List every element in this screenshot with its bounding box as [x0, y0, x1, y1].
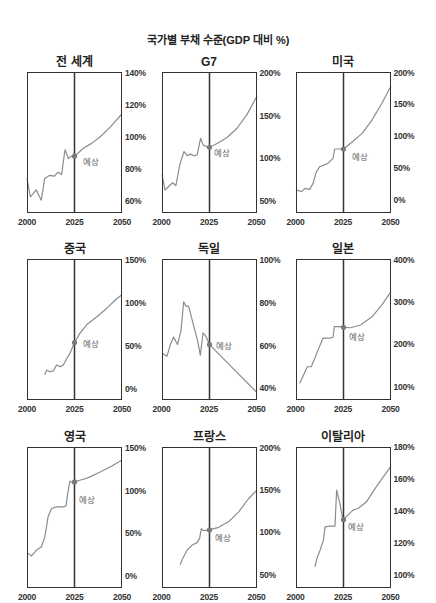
y-axis-tick-label: 0%	[125, 570, 137, 582]
plot-frame	[296, 259, 391, 400]
panel-title: 중국	[7, 242, 142, 256]
panel-title: 독일	[142, 242, 277, 256]
y-axis-tick-label: 60%	[125, 195, 141, 207]
x-axis-tick-label: 2050	[113, 591, 131, 603]
x-axis-tick-label: 2025	[334, 403, 352, 415]
y-axis-tick-label: 140%	[394, 505, 415, 517]
plot-frame	[162, 447, 257, 588]
chart-panel-china: 중국 예상150%100%50%0%200020252050	[27, 259, 122, 400]
plot-frame	[162, 259, 257, 400]
chart-panel-italy: 이탈리아 예상180%160%140%120%100%200020252050	[296, 447, 391, 588]
y-axis-tick-label: 200%	[394, 67, 415, 79]
chart-title: 국가별 부채 수준(GDP 대비 %)	[0, 33, 436, 47]
x-axis-tick-label: 2000	[152, 403, 170, 415]
forecast-label: 예상	[216, 340, 232, 352]
y-axis-tick-label: 100%	[394, 569, 415, 581]
x-axis-tick-label: 2000	[286, 403, 304, 415]
y-axis-tick-label: 100%	[260, 152, 281, 164]
y-axis-tick-label: 400%	[394, 254, 415, 266]
y-axis-tick-label: 160%	[394, 473, 415, 485]
forecast-label: 예상	[79, 494, 95, 506]
y-axis-tick-label: 80%	[260, 297, 276, 309]
y-axis-tick-label: 100%	[125, 131, 146, 143]
x-axis-tick-label: 2050	[247, 216, 265, 228]
x-axis-tick-label: 2025	[65, 591, 83, 603]
chart-panel-world: 전 세계 예상140%120%100%80%60%200020252050	[27, 72, 122, 213]
forecast-label: 예상	[349, 331, 365, 343]
y-axis-tick-label: 50%	[125, 527, 141, 539]
x-axis-tick-label: 2000	[286, 591, 304, 603]
panel-title: 전 세계	[7, 55, 142, 69]
x-axis-tick-label: 2025	[200, 591, 218, 603]
panel-title: 이탈리아	[276, 430, 411, 444]
panel-title: 미국	[276, 55, 411, 69]
y-axis-tick-label: 0%	[394, 194, 406, 206]
forecast-label: 예상	[83, 338, 99, 350]
x-axis-tick-label: 2050	[113, 216, 131, 228]
x-axis-tick-label: 2000	[152, 216, 170, 228]
x-axis-tick-label: 2050	[381, 403, 399, 415]
y-axis-tick-label: 200%	[394, 338, 415, 350]
plot-frame	[162, 72, 257, 213]
y-axis-tick-label: 150%	[260, 484, 281, 496]
x-axis-tick-label: 2050	[247, 591, 265, 603]
panel-title: G7	[142, 55, 277, 69]
y-axis-tick-label: 40%	[260, 382, 276, 394]
x-axis-tick-label: 2050	[381, 591, 399, 603]
y-axis-tick-label: 300%	[394, 296, 415, 308]
y-axis-tick-label: 100%	[125, 485, 146, 497]
x-axis-tick-label: 2050	[247, 403, 265, 415]
chart-panel-germany: 독일 예상100%80%60%40%200020252050	[162, 259, 257, 400]
y-axis-tick-label: 0%	[125, 383, 137, 395]
plot-frame	[27, 259, 122, 400]
plot-frame	[27, 447, 122, 588]
x-axis-tick-label: 2025	[200, 403, 218, 415]
y-axis-tick-label: 100%	[394, 130, 415, 142]
y-axis-tick-label: 50%	[260, 195, 276, 207]
x-axis-tick-label: 2000	[18, 591, 36, 603]
forecast-label: 예상	[214, 147, 230, 159]
x-axis-tick-label: 2000	[18, 216, 36, 228]
plot-frame	[27, 72, 122, 213]
x-axis-tick-label: 2025	[200, 216, 218, 228]
y-axis-tick-label: 150%	[394, 98, 415, 110]
forecast-label: 예상	[83, 156, 99, 168]
x-axis-tick-label: 2000	[152, 591, 170, 603]
x-axis-tick-label: 2050	[113, 403, 131, 415]
y-axis-tick-label: 150%	[260, 110, 281, 122]
chart-panel-uk: 영국 예상150%100%50%0%200020252050	[27, 447, 122, 588]
y-axis-tick-label: 120%	[394, 537, 415, 549]
y-axis-tick-label: 60%	[260, 340, 276, 352]
forecast-label: 예상	[215, 532, 231, 544]
y-axis-tick-label: 80%	[125, 163, 141, 175]
x-axis-tick-label: 2000	[18, 403, 36, 415]
x-axis-tick-label: 2000	[286, 216, 304, 228]
panel-title: 프랑스	[142, 430, 277, 444]
y-axis-tick-label: 100%	[125, 297, 146, 309]
plot-frame	[296, 72, 391, 213]
panel-title: 일본	[276, 242, 411, 256]
y-axis-tick-label: 120%	[125, 99, 146, 111]
y-axis-tick-label: 50%	[260, 569, 276, 581]
x-axis-tick-label: 2025	[65, 216, 83, 228]
x-axis-tick-label: 2025	[65, 403, 83, 415]
x-axis-tick-label: 2025	[334, 216, 352, 228]
chart-panel-france: 프랑스 예상200%150%100%50%200020252050	[162, 447, 257, 588]
forecast-label: 예상	[352, 151, 368, 163]
panel-title: 영국	[7, 430, 142, 444]
y-axis-tick-label: 100%	[260, 526, 281, 538]
x-axis-tick-label: 2050	[381, 216, 399, 228]
chart-panel-g7: G7 예상200%150%100%50%200020252050	[162, 72, 257, 213]
forecast-label: 예상	[348, 521, 364, 533]
y-axis-tick-label: 50%	[125, 340, 141, 352]
y-axis-tick-label: 100%	[394, 381, 415, 393]
plot-frame	[296, 447, 391, 588]
y-axis-tick-label: 180%	[394, 441, 415, 453]
chart-panel-us: 미국 예상200%150%100%50%0%200020252050	[296, 72, 391, 213]
x-axis-tick-label: 2025	[334, 591, 352, 603]
y-axis-tick-label: 50%	[394, 162, 410, 174]
chart-panel-japan: 일본 예상400%300%200%100%200020252050	[296, 259, 391, 400]
